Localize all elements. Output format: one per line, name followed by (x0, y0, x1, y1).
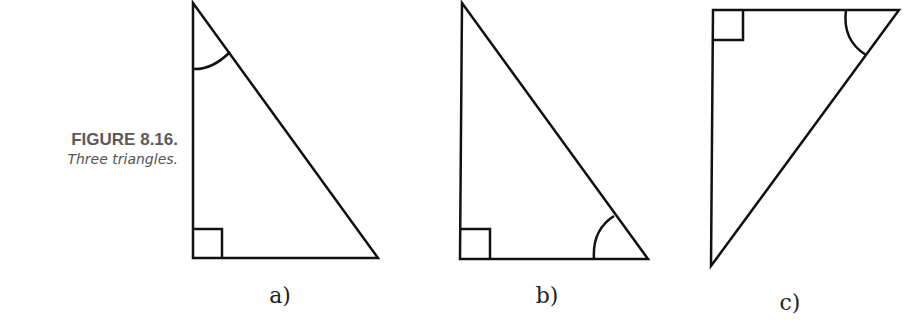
triangle-c (711, 10, 899, 266)
right-angle-marker-c (713, 10, 743, 40)
angle-arc-c (845, 10, 866, 55)
triangle-a (193, 3, 378, 258)
triangles-diagram: a) b) c) (0, 0, 918, 325)
triangle-b (460, 3, 648, 259)
right-angle-marker-a (193, 229, 222, 258)
label-c: c) (780, 290, 801, 315)
right-angle-marker-b (460, 229, 490, 259)
label-a: a) (269, 283, 291, 308)
angle-arc-b (594, 216, 614, 259)
angle-arc-a (193, 52, 230, 69)
label-b: b) (536, 283, 559, 308)
